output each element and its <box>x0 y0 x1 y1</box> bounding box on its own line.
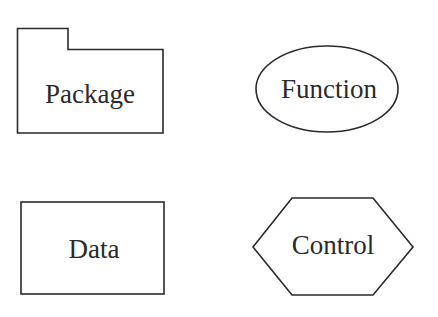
function-shape: Function <box>256 46 398 132</box>
control-label: Control <box>292 230 375 260</box>
data-shape: Data <box>21 202 164 294</box>
control-shape: Control <box>253 198 413 295</box>
diagram-canvas: Package Function Data Control <box>0 0 438 317</box>
package-shape: Package <box>18 29 164 134</box>
package-label: Package <box>45 79 135 109</box>
data-label: Data <box>69 234 120 264</box>
function-label: Function <box>281 74 378 104</box>
